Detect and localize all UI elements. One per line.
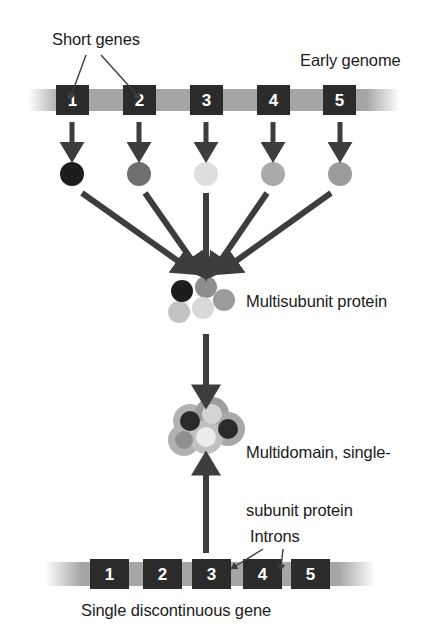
transcription-arrows (72, 122, 340, 150)
assembly-arrows (82, 193, 331, 266)
label-early-genome: Early genome (300, 51, 401, 70)
leader-short-genes-to-exon-2 (101, 55, 138, 96)
label-short-genes: Short genes (52, 30, 140, 49)
gene-evolution-diagram: 1 2 3 4 5 1 2 3 4 5 (0, 0, 426, 636)
label-multisubunit-protein: Multisubunit protein (246, 292, 387, 311)
label-introns: Introns (250, 527, 300, 546)
label-multidomain-line-1: Multidomain, single- (246, 443, 391, 462)
short-genes-leaders (71, 55, 138, 96)
label-multidomain-line-2: subunit protein (246, 501, 391, 520)
label-single-discontinuous-gene: Single discontinuous gene (81, 601, 271, 620)
leader-short-genes-to-exon-1 (71, 55, 86, 96)
